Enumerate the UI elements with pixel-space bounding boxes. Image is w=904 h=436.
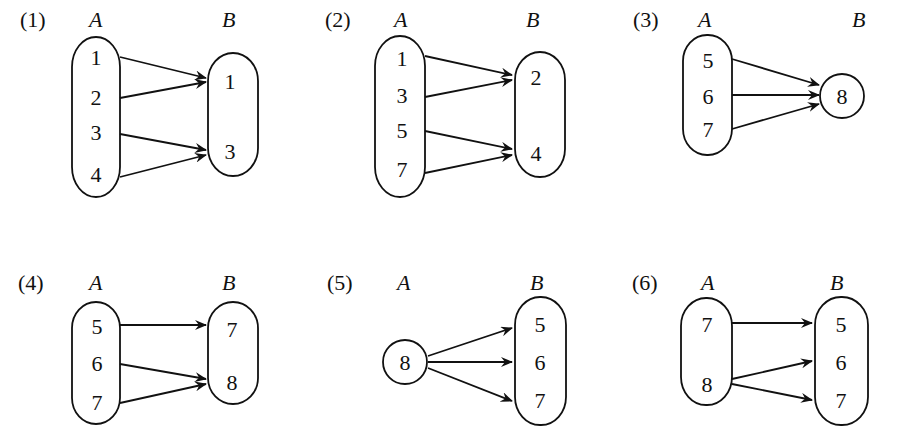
mapping-arrow [732,384,812,400]
mapping-diagrams: (1) A B 1 2 3 4 1 3 (2) A B 1 3 5 7 2 4 … [0,0,904,436]
a-element: 3 [397,83,408,108]
diagram-5: (5) A B 8 5 6 7 [327,270,566,425]
b-element: 2 [531,65,542,90]
a-element: 1 [397,46,408,71]
mapping-arrow [120,384,206,403]
diagram-6: (6) A B 7 8 5 6 7 [632,270,868,425]
diagram-label: (5) [327,270,353,295]
set-b-label: B [530,270,543,295]
diagram-label: (3) [633,7,659,32]
mapping-arrow [425,155,512,173]
b-element: 8 [837,84,848,109]
set-a-label: A [392,7,408,32]
a-element: 5 [397,118,408,143]
diagram-label: (1) [20,7,46,32]
mapping-arrow [732,361,812,379]
b-element: 5 [535,312,546,337]
a-element: 7 [397,157,408,182]
a-element: 8 [400,350,411,375]
diagram-4: (4) A B 5 6 7 7 8 [18,270,258,424]
a-element: 6 [703,84,714,109]
b-element: 4 [531,141,542,166]
mapping-arrow [425,131,512,149]
mapping-arrow [428,368,512,401]
a-element: 7 [702,312,713,337]
b-element: 6 [535,350,546,375]
b-element: 7 [535,388,546,413]
a-element: 6 [92,351,103,376]
mapping-arrow [120,82,206,98]
diagram-label: (6) [632,270,658,295]
mapping-arrow [732,59,819,85]
mapping-arrow [120,134,206,150]
mapping-arrow [425,56,512,75]
mapping-arrow [120,57,206,78]
b-element: 7 [227,317,238,342]
a-element: 7 [92,390,103,415]
b-element: 6 [836,350,847,375]
b-element: 7 [836,388,847,413]
a-element: 3 [91,120,102,145]
mapping-arrow [732,104,819,129]
a-element: 7 [703,117,714,142]
a-element: 4 [91,162,102,187]
set-b-label: B [222,7,235,32]
diagram-label: (2) [325,7,351,32]
set-a-label: A [395,270,411,295]
set-a-label: A [87,7,103,32]
set-b-label: B [830,270,843,295]
a-element: 2 [91,85,102,110]
a-element: 1 [91,45,102,70]
set-a-label: A [696,7,712,32]
b-element: 3 [225,139,236,164]
mapping-arrow [120,364,206,379]
b-element: 8 [227,370,238,395]
b-element: 1 [225,69,236,94]
a-element: 8 [702,372,713,397]
mapping-arrow [120,155,206,177]
diagram-2: (2) A B 1 3 5 7 2 4 [325,7,565,197]
a-element: 5 [92,314,103,339]
diagram-1: (1) A B 1 2 3 4 1 3 [20,7,258,197]
set-a-label: A [699,270,715,295]
set-b-label: B [852,7,865,32]
diagram-label: (4) [18,270,44,295]
b-element: 5 [836,312,847,337]
set-a-label: A [87,270,103,295]
diagram-3: (3) A B 5 6 7 8 [633,7,865,155]
a-element: 5 [703,48,714,73]
mapping-arrow [425,80,512,97]
set-b-label: B [222,270,235,295]
mapping-arrow [428,328,512,356]
set-b-label: B [526,7,539,32]
